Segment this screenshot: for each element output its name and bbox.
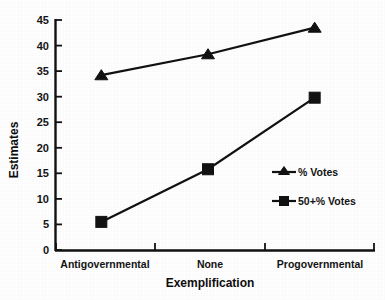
chart-canvas: 45 40 35 30 25 20 15 10 5 0 Estimates [0, 0, 385, 300]
x-category-label-antigovernmental: Antigovernmental [60, 258, 149, 270]
chart-figure: 45 40 35 30 25 20 15 10 5 0 Estimates [0, 0, 385, 300]
data-point-fifty-plus-1 [203, 164, 214, 175]
y-axis-title: Estimates [7, 121, 21, 178]
y-tick-label-15: 15 [37, 167, 49, 179]
y-tick-label-35: 35 [37, 65, 49, 77]
legend-label-fifty-plus-votes: 50+% Votes [298, 195, 356, 207]
legend-entry-fifty-plus-votes[interactable]: 50+% Votes [272, 195, 356, 207]
y-tick-label-45: 45 [37, 14, 49, 26]
y-tick-label-30: 30 [37, 91, 49, 103]
x-category-label-progovernmental: Progovernmental [277, 258, 363, 270]
data-point-fifty-plus-2 [309, 92, 320, 103]
x-axis-title: Exemplification [166, 276, 255, 290]
y-tick-label-40: 40 [37, 40, 49, 52]
x-category-label-none: None [197, 258, 223, 270]
data-point-fifty-plus-0 [96, 216, 107, 227]
square-icon [280, 197, 289, 206]
y-tick-label-25: 25 [37, 116, 49, 128]
y-tick-label-20: 20 [37, 142, 49, 154]
x-tick-labels: Antigovernmental None Progovernmental [60, 258, 363, 270]
y-tick-label-0: 0 [43, 244, 49, 256]
y-tick-label-5: 5 [43, 218, 49, 230]
y-tick-label-10: 10 [37, 193, 49, 205]
legend-label-percent-votes: % Votes [298, 166, 338, 178]
